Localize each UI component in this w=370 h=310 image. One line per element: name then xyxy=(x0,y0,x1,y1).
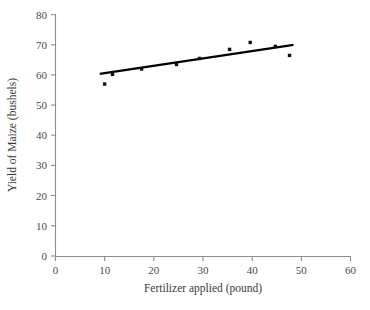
x-tick-label-0: 0 xyxy=(53,264,59,276)
y-tick-label-80: 80 xyxy=(36,9,48,21)
data-point xyxy=(175,63,178,66)
y-axis-ticks xyxy=(51,15,56,256)
data-point xyxy=(249,41,252,44)
y-tick-label-40: 40 xyxy=(36,129,48,141)
y-tick-label-0: 0 xyxy=(42,250,48,262)
x-axis-title: Fertilizer applied (pound) xyxy=(144,282,262,295)
x-axis-tick-labels: 0 10 20 30 40 50 60 xyxy=(53,264,357,276)
data-point-group xyxy=(103,41,291,86)
x-axis-ticks xyxy=(56,257,351,262)
x-tick-label-40: 40 xyxy=(247,264,259,276)
data-point xyxy=(111,73,114,76)
y-axis-tick-labels: 80 70 60 50 40 30 20 10 0 xyxy=(36,9,48,262)
data-point xyxy=(140,67,143,70)
data-point xyxy=(288,54,291,57)
trend-line xyxy=(100,45,294,74)
y-axis-title: Yield of Maize (bushels) xyxy=(6,78,19,192)
y-tick-label-20: 20 xyxy=(36,190,48,202)
data-point xyxy=(228,48,231,51)
data-point xyxy=(274,45,277,48)
chart-canvas: 80 70 60 50 40 30 20 10 0 0 10 20 30 40 xyxy=(0,0,370,310)
x-tick-label-60: 60 xyxy=(345,264,357,276)
scatter-chart: 80 70 60 50 40 30 20 10 0 0 10 20 30 40 xyxy=(0,0,370,310)
y-tick-label-60: 60 xyxy=(36,69,48,81)
y-tick-label-70: 70 xyxy=(36,39,48,51)
y-tick-label-30: 30 xyxy=(36,159,48,171)
x-tick-label-10: 10 xyxy=(99,264,111,276)
x-tick-label-20: 20 xyxy=(148,264,160,276)
y-tick-label-10: 10 xyxy=(36,220,48,232)
data-point xyxy=(103,82,106,85)
x-tick-label-30: 30 xyxy=(198,264,210,276)
x-tick-label-50: 50 xyxy=(296,264,308,276)
data-point xyxy=(198,57,201,60)
y-tick-label-50: 50 xyxy=(36,99,48,111)
